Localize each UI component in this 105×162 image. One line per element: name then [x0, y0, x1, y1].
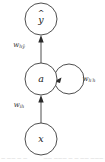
weight-label-self-loop-subscript: h′h: [89, 78, 96, 83]
weight-label-hidden-to-output: whŷ: [13, 41, 25, 50]
edge-hidden-to-output-arrowhead: [38, 35, 43, 43]
self-loop-circle: [54, 64, 84, 94]
caption-fragment-left: — —— — —: [0, 155, 27, 162]
node-output: y ^: [25, 3, 57, 35]
node-hidden: a: [25, 63, 57, 95]
caption-fragment-right: —— ——— — — —— ——— —: [27, 155, 105, 162]
weight-label-hidden-to-output-subscript: hŷ: [19, 44, 25, 50]
rnn-diagram-figure: y ^ a x whŷ wih wh′h — —— — ——— ——— — — …: [0, 0, 105, 162]
node-output-hat-accent: ^: [38, 8, 45, 17]
node-input-label: x: [38, 133, 44, 144]
weight-label-input-to-hidden-subscript: ih: [20, 104, 24, 109]
edge-input-to-hidden: [38, 95, 43, 123]
edge-hidden-self-loop: [54, 64, 84, 94]
edge-hidden-to-output: [38, 35, 43, 63]
weight-label-self-loop: wh′h: [83, 75, 96, 83]
caption-sliver: — —— — ——— ——— — — —— ——— —: [0, 155, 105, 162]
weight-label-input-to-hidden: wih: [14, 101, 24, 109]
rnn-diagram-canvas: y ^ a x whŷ wih wh′h: [0, 0, 105, 162]
edge-input-to-hidden-arrowhead: [38, 95, 43, 103]
node-hidden-label: a: [38, 73, 44, 84]
node-input: x: [25, 123, 57, 155]
